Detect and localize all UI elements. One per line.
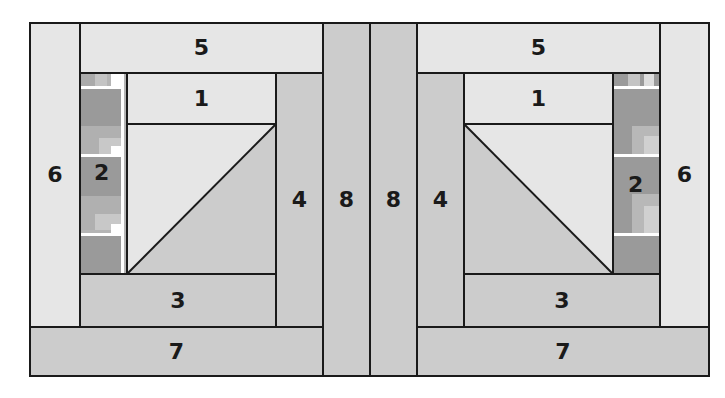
- left-piece-7: 7: [29, 326, 324, 377]
- right-piece-7-label: 7: [555, 341, 570, 363]
- left-piece-2: 2: [79, 72, 128, 275]
- right-piece-8-label: 8: [386, 189, 401, 211]
- right-center-triangle-square: [463, 123, 614, 275]
- right-piece-1-label: 1: [531, 88, 546, 110]
- left-center-triangle-square: [126, 123, 277, 275]
- left-piece-3: 3: [79, 273, 277, 328]
- left-piece-7-label: 7: [169, 341, 184, 363]
- left-piece-3-label: 3: [170, 290, 185, 312]
- left-piece-6: 6: [29, 22, 81, 328]
- right-piece-6-label: 6: [677, 164, 692, 186]
- right-piece-7: 7: [416, 326, 710, 377]
- right-piece-5: 5: [416, 22, 661, 74]
- right-piece-3: 3: [463, 273, 661, 328]
- left-piece-6-label: 6: [47, 164, 62, 186]
- left-piece-5: 5: [79, 22, 324, 74]
- left-piece-8-label: 8: [339, 189, 354, 211]
- right-piece-5-label: 5: [531, 37, 546, 59]
- left-piece-5-label: 5: [194, 37, 209, 59]
- right-piece-2-label: 2: [628, 174, 643, 196]
- left-piece-1: 1: [126, 72, 277, 125]
- left-piece-1-label: 1: [194, 88, 209, 110]
- right-piece-8: 8: [369, 22, 418, 377]
- right-piece-3-label: 3: [554, 290, 569, 312]
- left-piece-2-label: 2: [94, 162, 109, 184]
- right-piece-1: 1: [463, 72, 614, 125]
- right-piece-2: 2: [612, 72, 661, 275]
- left-piece-4: 4: [275, 72, 324, 328]
- left-piece-4-label: 4: [292, 189, 307, 211]
- right-piece-4: 4: [416, 72, 465, 328]
- left-piece-8: 8: [322, 22, 371, 377]
- right-piece-4-label: 4: [433, 189, 448, 211]
- right-piece-6: 6: [659, 22, 710, 328]
